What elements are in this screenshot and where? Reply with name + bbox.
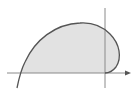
diagram-figure: Shaded region bounded by a closed curve …: [0, 0, 136, 99]
x-axis-arrow-icon: [125, 71, 131, 76]
shaded-region: [20, 23, 119, 73]
plot-canvas: [0, 0, 136, 99]
